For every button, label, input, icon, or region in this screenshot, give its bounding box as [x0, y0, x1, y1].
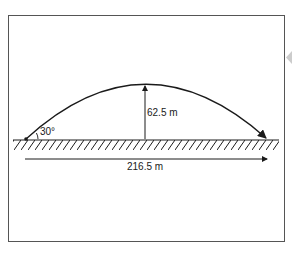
max-height-label: 62.5 m	[147, 108, 178, 118]
launch-angle-label: 30°	[40, 127, 55, 137]
diagram-canvas: 30° 62.5 m 216.5 m	[0, 0, 299, 257]
side-marker-icon	[286, 51, 292, 64]
launch-point	[24, 137, 28, 141]
angle-arc-icon	[36, 133, 38, 139]
ground-hatching	[13, 140, 279, 150]
range-label: 216.5 m	[127, 162, 163, 172]
trajectory-arc	[26, 84, 266, 139]
